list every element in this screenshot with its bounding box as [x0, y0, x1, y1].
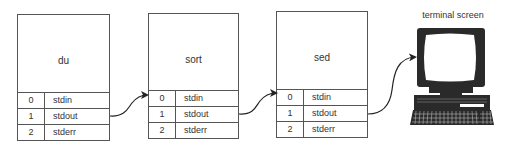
- diagram-overlay: [0, 0, 508, 148]
- computer-terminal-icon: [410, 28, 494, 125]
- pipe-arrow-sort-to-sed: [239, 93, 276, 114]
- pipe-arrow-du-to-sort: [110, 95, 147, 116]
- pipe-arrow-sed-to-terminal: [368, 57, 415, 114]
